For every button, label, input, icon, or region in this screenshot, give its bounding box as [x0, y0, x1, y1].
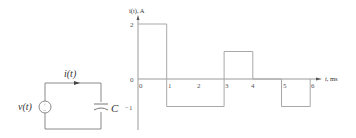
current-arrow-icon	[74, 81, 80, 85]
x-tick-label: 0	[139, 82, 143, 90]
y-axis-label: i(t), A	[129, 7, 145, 15]
x-tick-label: 6	[311, 82, 315, 90]
source-plus-sign: +	[43, 102, 46, 107]
x-tick-label: 1	[168, 82, 172, 90]
x-tick-label: 3	[225, 82, 229, 90]
current-waveform-chart: i(t), A t, ms 2 0 −1 0 1 2 3 4 5 6	[125, 7, 338, 130]
figure: i(t) + − v(t) C i(t), A t, ms 2 0 −1 0 1…	[0, 0, 356, 138]
x-axis-arrow-icon	[316, 78, 322, 81]
y-axis-arrow-icon	[137, 15, 140, 20]
circuit-diagram: i(t) + − v(t) C	[18, 68, 119, 129]
current-waveform	[138, 24, 310, 107]
capacitor-label: C	[111, 102, 119, 114]
capacitor-icon	[94, 104, 108, 110]
x-tick-label: 2	[197, 82, 201, 90]
current-label: i(t)	[64, 68, 77, 80]
source-minus-sign: −	[43, 108, 46, 113]
x-axis-label: t, ms	[325, 75, 338, 82]
y-tick-label: 2	[130, 21, 134, 29]
y-tick-label: 0	[130, 76, 134, 84]
y-tick-label: −1	[125, 104, 133, 112]
circuit-wire	[45, 112, 101, 129]
x-tick-label: 5	[283, 82, 287, 90]
source-label: v(t)	[18, 101, 33, 113]
x-axis-label-unit: , ms	[327, 75, 338, 82]
x-tick-label: 4	[251, 82, 255, 90]
circuit-wire	[45, 83, 101, 102]
